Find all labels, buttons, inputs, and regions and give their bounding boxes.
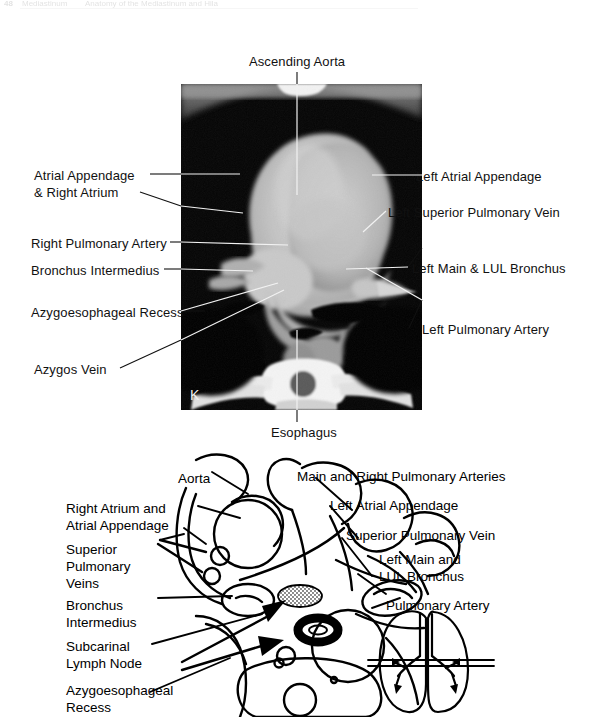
ct-image: K (181, 84, 422, 410)
running-head-folio: 48 (4, 0, 13, 8)
diagram-label-main-and-right-pulmonary-arteries: Main and Right Pulmonary Arteries (297, 468, 506, 485)
diagram-label-superior-pulmonary-veins: Superior Pulmonary Veins (66, 541, 131, 592)
running-head-rule (20, 8, 418, 9)
ct-label-ascending-aorta: Ascending Aorta (249, 54, 345, 71)
ct-image-panel: K (181, 84, 422, 410)
ct-label-left-pulmonary-artery: Left Pulmonary Artery (422, 322, 549, 339)
diagram-label-subcarinal-lymph-node: Subcarinal Lymph Node (66, 638, 142, 672)
running-head: 48 Mediastinum Anatomy of the Mediastinu… (0, 0, 600, 11)
ct-label-azygoesophageal-recess: Azygoesophageal Recess (31, 305, 184, 322)
ct-label-left-superior-pulmonary-vein: Left Superior Pulmonary Vein (388, 205, 560, 222)
ct-label-esophagus: Esophagus (271, 425, 337, 442)
diagram-label-bronchus-intermedius: Bronchus Intermedius (66, 597, 137, 631)
diagram-label-left-main-and-lul-bronchus: Left Main and LUL Bronchus (379, 551, 464, 585)
diagram-label-left-atrial-appendage: Left Atrial Appendage (330, 497, 458, 514)
running-head-part-a: Mediastinum (22, 0, 67, 8)
diagram-label-right-atrium-and-atrial-appendage: Right Atrium and Atrial Appendage (66, 500, 169, 534)
ct-label-left-main-lul-bronchus: Left Main & LUL Bronchus (412, 261, 566, 278)
diagram-label-superior-pulmonary-vein: Superior Pulmonary Vein (346, 527, 495, 544)
ct-orientation-marker: K (190, 387, 200, 403)
ct-label-bronchus-intermedius: Bronchus Intermedius (31, 263, 159, 280)
ct-label-right-pulmonary-artery: Right Pulmonary Artery (31, 236, 167, 253)
diagram-label-azygoesophageal-recess: Azygoesophageal Recess (66, 682, 173, 716)
ct-label-atrial-appendage-right-atrium: Atrial Appendage & Right Atrium (34, 168, 135, 201)
running-head-part-b: Anatomy of the Mediastinum and Hila (85, 0, 218, 8)
diagram-label-pulmonary-artery: Pulmonary Artery (386, 597, 490, 614)
figure-page: 48 Mediastinum Anatomy of the Mediastinu… (0, 0, 600, 717)
ct-label-left-atrial-appendage: Left Atrial Appendage (416, 169, 542, 186)
ct-label-azygos-vein: Azygos Vein (34, 362, 107, 379)
diagram-label-aorta: Aorta (178, 470, 210, 487)
